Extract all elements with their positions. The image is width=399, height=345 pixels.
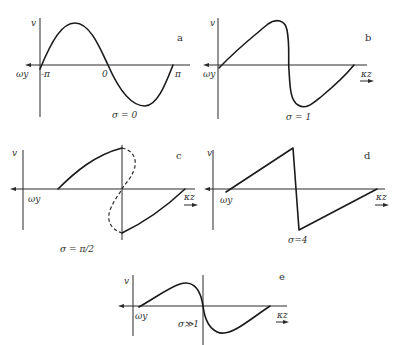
panel-tag: c — [176, 150, 182, 161]
caption: σ = 1 — [286, 112, 311, 122]
panel-e: v e ωy κz σ≫1 — [118, 271, 289, 345]
x-right-label: κz — [360, 69, 372, 79]
arrow-left-icon — [118, 304, 124, 308]
tick-label-pi: π — [174, 69, 182, 79]
y-axis-label: v — [124, 276, 129, 286]
caption: σ≫1 — [178, 319, 199, 329]
tick-label-minus-pi: -π — [41, 69, 51, 79]
arrow-left-icon — [204, 187, 210, 191]
panel-tag: b — [365, 32, 371, 43]
x-right-label: κz — [276, 310, 288, 320]
y-axis-label: v — [207, 148, 212, 158]
arrow-right-icon — [283, 320, 289, 324]
x-left-label: ωy — [16, 69, 29, 79]
caption: σ=4 — [288, 235, 308, 245]
arrow-right-icon — [192, 203, 198, 207]
arrow-right-icon — [383, 203, 389, 207]
caption: σ = 0 — [112, 110, 137, 120]
x-right-label: κz — [375, 192, 387, 202]
tick-label-zero: 0 — [102, 69, 108, 79]
arrow-left-icon — [203, 63, 209, 67]
wave-curve-lower — [122, 189, 185, 233]
arrow-left-icon — [25, 63, 31, 67]
caption: σ = π/2 — [60, 244, 94, 254]
panel-tag: e — [279, 271, 285, 282]
wave-curve — [139, 283, 270, 333]
y-axis-label: v — [31, 18, 36, 28]
panel-c: v c ωy κz σ = π/2 — [10, 145, 198, 254]
panel-tag: a — [177, 32, 183, 43]
wave-curve-upper — [58, 148, 122, 189]
panel-a: v a ωy -π 0 π σ = 0 — [16, 18, 190, 120]
x-left-label: ωy — [203, 69, 216, 79]
wave-curve — [219, 21, 354, 107]
y-axis-label: v — [210, 18, 215, 28]
arrow-left-icon — [10, 187, 16, 191]
wave-steepening-figure: v a ωy -π 0 π σ = 0 v b ωy κz σ = 1 v c … — [0, 0, 399, 345]
arrow-right-icon — [368, 79, 374, 83]
x-left-label: ωy — [28, 194, 41, 204]
panel-b: v b ωy κz σ = 1 — [203, 18, 374, 122]
x-left-label: ωy — [220, 195, 233, 205]
panel-tag: d — [364, 150, 371, 161]
panel-d: v d ωy κz σ=4 — [204, 148, 389, 245]
x-right-label: κz — [183, 192, 195, 202]
x-left-label: ωy — [135, 311, 148, 321]
y-axis-label: v — [12, 148, 17, 158]
